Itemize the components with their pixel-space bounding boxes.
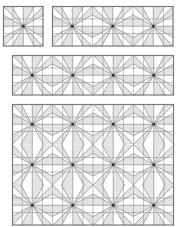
hub-vertex	[71, 74, 74, 77]
hub-vertex	[152, 25, 155, 28]
hub-vertex	[31, 74, 34, 77]
hub-vertex	[152, 163, 155, 166]
hub-vertex	[112, 123, 115, 126]
hub-vertex	[152, 123, 155, 126]
hub-vertex	[71, 123, 74, 126]
tiling-panel-1	[3, 6, 44, 47]
hub-vertex	[112, 74, 115, 77]
tiling-panel-3	[12, 55, 174, 96]
hub-vertex	[152, 204, 155, 207]
hub-vertex	[111, 25, 114, 28]
hub-vertex	[112, 204, 115, 207]
tiling-panel-4	[12, 104, 174, 226]
hub-vertex	[22, 25, 25, 28]
hub-vertex	[31, 123, 34, 126]
hub-vertex	[31, 204, 34, 207]
hub-vertex	[71, 25, 74, 28]
hub-vertex	[71, 204, 74, 207]
hub-vertex	[31, 163, 34, 166]
tiling-panel-2	[52, 6, 174, 47]
hub-vertex	[112, 163, 115, 166]
hub-vertex	[152, 74, 155, 77]
hub-vertex	[71, 163, 74, 166]
